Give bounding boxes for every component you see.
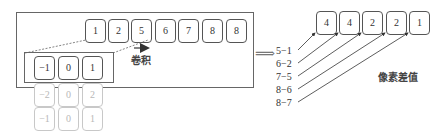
result-cell: 4 [339, 11, 360, 35]
kernel-faded-cell: −2 [34, 83, 55, 107]
input-cell: 6 [155, 19, 176, 43]
input-cell: 7 [178, 19, 199, 43]
input-cell: 1 [85, 19, 106, 43]
input-cell: 2 [108, 19, 129, 43]
difference-expression: 8−6 [276, 84, 292, 95]
kernel-faded-cell: 0 [58, 83, 79, 107]
result-cell: 1 [409, 11, 430, 35]
result-cell: 2 [386, 11, 407, 35]
difference-expression: 5−1 [276, 45, 292, 56]
pixel-difference-label: 像素差值 [378, 69, 418, 84]
difference-expression: 6−2 [276, 58, 292, 69]
input-cell: 5 [131, 19, 152, 43]
kernel-faded-cell: −1 [34, 107, 55, 131]
difference-expression: 7−5 [276, 71, 292, 82]
kernel-faded-cell: 0 [58, 107, 79, 131]
difference-expression: 8−7 [276, 97, 292, 108]
kernel-faded-cell: 2 [82, 83, 103, 107]
convolution-label: 卷积 [131, 52, 151, 67]
kernel-cell: 1 [82, 56, 103, 80]
kernel-faded-cell: 1 [82, 107, 103, 131]
result-cell: 2 [362, 11, 383, 35]
transition-arrow-icon: ⟹ [255, 45, 275, 62]
kernel-cell: 0 [58, 56, 79, 80]
input-cell: 8 [226, 19, 247, 43]
input-cell: 8 [202, 19, 223, 43]
kernel-cell: −1 [34, 56, 55, 80]
result-cell: 4 [316, 11, 337, 35]
